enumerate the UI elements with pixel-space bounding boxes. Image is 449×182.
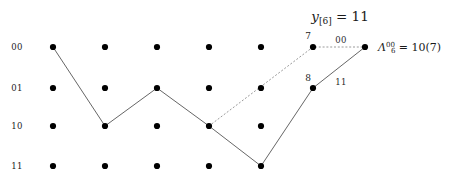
trellis-dot bbox=[50, 163, 56, 169]
trellis-dot bbox=[154, 163, 160, 169]
edge-label-11: 11 bbox=[335, 77, 346, 87]
trellis-dot bbox=[206, 85, 212, 91]
trellis-dot bbox=[154, 85, 160, 91]
node-number-7: 7 bbox=[305, 31, 311, 41]
trellis-dot bbox=[50, 123, 56, 129]
trellis-dot bbox=[50, 44, 56, 50]
figure-title: y[6] = 11 bbox=[311, 8, 368, 26]
edge-label-00: 00 bbox=[335, 35, 346, 45]
title-equation: = 11 bbox=[332, 8, 369, 24]
trellis-dot bbox=[102, 44, 108, 50]
solid-path-edges bbox=[53, 47, 365, 166]
trellis-dot bbox=[102, 163, 108, 169]
trellis-dot bbox=[258, 85, 264, 91]
figure-canvas: 00 01 10 11 y[6] = 11 7 8 00 11 Λ006 = 1… bbox=[0, 0, 449, 182]
trellis-dot bbox=[50, 85, 56, 91]
row-label-10: 10 bbox=[11, 121, 22, 131]
title-subscript: [6] bbox=[319, 16, 332, 26]
row-label-01: 01 bbox=[11, 83, 22, 93]
lambda-symbol: Λ bbox=[378, 41, 386, 54]
trellis-dot bbox=[206, 44, 212, 50]
row-label-11: 11 bbox=[11, 161, 22, 171]
trellis-dot bbox=[310, 44, 316, 50]
node-number-8: 8 bbox=[305, 73, 311, 83]
lambda-metric-label: Λ006 = 10(7) bbox=[378, 41, 441, 55]
title-variable: y bbox=[311, 8, 319, 24]
solid-path-polyline bbox=[53, 47, 365, 166]
trellis-dot bbox=[258, 123, 264, 129]
trellis-state-dots bbox=[50, 44, 368, 169]
trellis-dot bbox=[154, 44, 160, 50]
trellis-dot bbox=[102, 123, 108, 129]
trellis-diagram bbox=[0, 0, 449, 182]
trellis-dot bbox=[206, 163, 212, 169]
trellis-dot bbox=[362, 44, 368, 50]
trellis-dot bbox=[258, 44, 264, 50]
trellis-dot bbox=[102, 85, 108, 91]
trellis-dot bbox=[258, 163, 264, 169]
trellis-dot bbox=[206, 123, 212, 129]
lambda-equation: = 10(7) bbox=[395, 41, 441, 54]
trellis-dot bbox=[154, 123, 160, 129]
row-label-00: 00 bbox=[11, 42, 22, 52]
trellis-dot bbox=[310, 85, 316, 91]
